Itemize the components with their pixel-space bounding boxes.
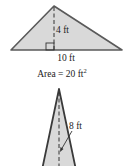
base-label-1: 10 ft bbox=[57, 53, 75, 63]
area-label-text: Area = 20 ft bbox=[37, 69, 84, 79]
triangle-figure-2: 8 ft bbox=[42, 89, 82, 166]
area-label: Area = 20 ft2 bbox=[37, 67, 87, 79]
height-label-2: 8 ft bbox=[69, 121, 82, 131]
area-label-exponent: 2 bbox=[84, 67, 87, 74]
height-label-1: 4 ft bbox=[56, 25, 69, 35]
triangle-figure-1: 4 ft bbox=[11, 6, 122, 50]
diagram-canvas: 4 ft 10 ft Area = 20 ft2 8 ft bbox=[0, 0, 130, 166]
